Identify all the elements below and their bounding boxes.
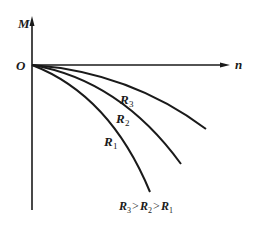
svg-text:1: 1 [169,206,173,215]
svg-text:R: R [160,199,169,213]
m-n-characteristic-diagram: M n O R 3 R 2 R 1 R 3 > R 2 > R 1 [0,0,256,225]
x-axis-label: n [235,57,242,72]
origin-label: O [16,58,26,73]
svg-text:3: 3 [129,99,134,109]
svg-text:2: 2 [148,206,152,215]
svg-text:1: 1 [113,141,118,151]
svg-text:R: R [118,199,127,213]
svg-text:3: 3 [127,206,131,215]
curve-r2 [32,65,181,164]
x-axis-arrow-icon [220,63,230,68]
svg-text:R: R [119,92,129,107]
svg-text:>: > [153,199,160,213]
y-axis-arrow-icon [30,16,35,26]
curve-label-r1: R 1 [103,134,118,151]
svg-text:R: R [115,111,125,126]
svg-text:R: R [139,199,148,213]
y-axis-label: M [17,16,30,31]
svg-text:>: > [132,199,139,213]
curve-label-r2: R 2 [115,111,130,128]
svg-text:2: 2 [125,118,130,128]
resistance-relation: R 3 > R 2 > R 1 [118,199,173,215]
svg-text:R: R [103,134,113,149]
curve-label-r3: R 3 [119,92,134,109]
